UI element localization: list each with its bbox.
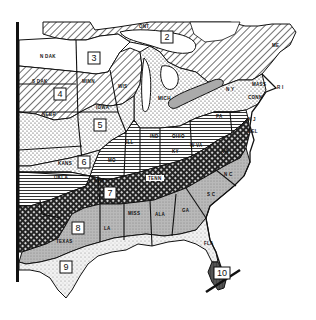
zone-3-label: 3 xyxy=(88,52,100,64)
svg-text:6: 6 xyxy=(81,157,86,167)
svg-text:10: 10 xyxy=(217,268,227,278)
label-minn: MINN xyxy=(82,79,95,84)
label-ont: ONT xyxy=(139,24,149,29)
label-nc: N C xyxy=(224,172,233,177)
label-s-dak: S DAK xyxy=(32,79,48,84)
svg-text:8: 8 xyxy=(75,223,80,233)
svg-text:4: 4 xyxy=(57,89,62,99)
svg-text:7: 7 xyxy=(107,188,112,198)
label-ri: R I xyxy=(277,85,284,90)
zone-2-label: 2 xyxy=(161,31,173,43)
label-mich: MICH xyxy=(158,96,171,101)
label-nebr: NEBR xyxy=(42,112,56,117)
zone-map: ONT N DAK S DAK MINN WIS NEBR IOWA MICH … xyxy=(0,0,316,320)
label-miss: MISS xyxy=(128,211,140,216)
label-okla: OKLA xyxy=(54,175,68,180)
label-iowa: IOWA xyxy=(96,105,110,110)
label-ga: GA xyxy=(182,208,190,213)
label-me: ME xyxy=(272,43,279,48)
label-pa: PA xyxy=(216,114,223,119)
label-tenn: TENN xyxy=(148,176,161,181)
zone-9-label: 9 xyxy=(60,261,72,273)
label-n-dak: N DAK xyxy=(40,54,56,59)
svg-text:9: 9 xyxy=(63,262,68,272)
label-ny: N Y xyxy=(226,87,234,92)
zone-6-label: 6 xyxy=(78,156,90,168)
label-ohio: OHIO xyxy=(172,134,185,139)
label-nj: N J xyxy=(248,117,256,122)
svg-text:5: 5 xyxy=(97,120,102,130)
label-mo: MO xyxy=(108,158,116,163)
label-wis: WIS xyxy=(118,84,127,89)
svg-text:3: 3 xyxy=(91,53,96,63)
label-w-va: W VA xyxy=(190,143,203,148)
label-ill: ILL xyxy=(126,140,134,145)
zone-4-label: 4 xyxy=(54,88,66,100)
label-ark: ARK xyxy=(94,178,105,183)
svg-text:2: 2 xyxy=(164,32,169,42)
label-sc: S C xyxy=(207,192,216,197)
zone-10-label: 10 xyxy=(214,267,230,279)
label-ala: ALA xyxy=(155,212,166,217)
zone-5-label: 5 xyxy=(94,119,106,131)
label-fla: FLA xyxy=(204,241,214,246)
label-texas: TEXAS xyxy=(56,239,73,244)
zone-7-label: 7 xyxy=(104,187,116,199)
zone-8-label: 8 xyxy=(72,222,84,234)
label-del: DEL xyxy=(248,129,258,134)
label-kans: KANS xyxy=(58,161,72,166)
label-la: LA xyxy=(104,226,111,231)
label-mass: MASS xyxy=(252,82,266,87)
label-conn: CONN xyxy=(248,95,262,100)
label-ind: IND xyxy=(150,134,159,139)
label-va: VA xyxy=(222,149,229,154)
label-ky: KY xyxy=(172,149,179,154)
